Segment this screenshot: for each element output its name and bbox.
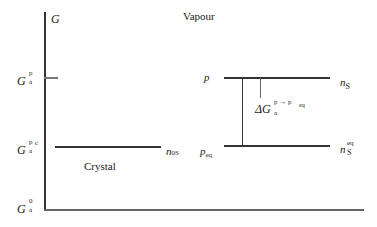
crystal-level-label: n0S	[166, 142, 179, 158]
x-axis	[44, 209, 364, 211]
nseq-sup: eq	[347, 140, 354, 147]
delta-pointer-line	[260, 78, 261, 98]
tick-gap-sub: a	[29, 79, 32, 86]
delta-g-sup-sub: eq	[299, 102, 305, 108]
y-axis	[44, 12, 46, 210]
tick-ga0-sup: 0	[29, 198, 33, 205]
tick-ga0-sub: a	[29, 207, 32, 214]
peq-sub: eq	[206, 151, 213, 159]
peq-main: p	[200, 145, 206, 157]
y-axis-label: G	[51, 13, 60, 25]
tick-gap-main: G	[17, 74, 26, 88]
nseq-main: n	[340, 144, 346, 155]
peq-level-line	[224, 145, 330, 147]
tick-label-ga0: G 0 a	[17, 200, 43, 216]
delta-g-sup: p → p	[274, 99, 292, 106]
tick-gapc-sup2: c	[35, 140, 38, 147]
delta-g-sub: a	[274, 110, 277, 117]
p-level-right-label: nS	[340, 73, 350, 89]
tick-gapc-main: G	[17, 143, 26, 157]
p-level-line	[224, 77, 330, 79]
p-level-left-label: p	[204, 72, 210, 83]
ns-sub: S	[346, 82, 350, 91]
crystal-label: Crystal	[84, 161, 116, 172]
delta-g-label: ΔG p → p eq a	[255, 99, 325, 119]
crystal-level-line	[55, 146, 161, 148]
peq-level-left-label: peq	[200, 142, 212, 158]
tick-ga0-main: G	[17, 202, 26, 216]
tick-gap-sup: p	[29, 70, 33, 77]
tick-gapc-sub: a	[29, 148, 32, 155]
nseq-sub: S	[347, 149, 351, 157]
vapour-label: Vapour	[183, 11, 215, 22]
tick-label-gapc: G p c a	[17, 141, 45, 157]
delta-connector-line	[242, 78, 243, 146]
peq-level-right-label: n eq S	[340, 140, 364, 160]
ns-main: n	[340, 76, 346, 88]
tick-gapc-sup: p	[29, 139, 33, 146]
tick-gap	[44, 77, 58, 79]
delta-g-main: ΔG	[255, 103, 271, 115]
n0s-sub: 0S	[172, 149, 179, 157]
tick-label-gap: G p a	[17, 72, 43, 88]
